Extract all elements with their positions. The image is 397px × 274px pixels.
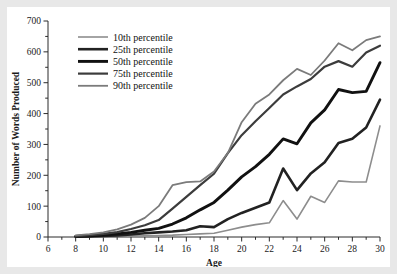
x-tick-label: 10: [99, 244, 109, 254]
y-tick-label: 400: [27, 109, 42, 119]
x-tick-label: 24: [292, 244, 302, 254]
x-tick-label: 14: [154, 244, 164, 254]
x-tick-label: 18: [209, 244, 219, 254]
y-axis-title: Number of Words Produced: [11, 71, 21, 186]
x-tick-label: 30: [375, 244, 385, 254]
x-tick-label: 22: [265, 244, 275, 254]
y-tick-label: 0: [36, 232, 41, 242]
x-tick-label: 6: [46, 244, 51, 254]
figure-container: 0100200300400500600700681012141618202224…: [0, 0, 397, 274]
x-tick-label: 8: [73, 244, 78, 254]
legend-label-4: 75th percentile: [113, 68, 173, 79]
x-tick-label: 16: [182, 244, 192, 254]
y-tick-label: 300: [27, 140, 42, 150]
legend-label-1: 10th percentile: [113, 32, 173, 43]
y-tick-label: 600: [27, 47, 42, 57]
y-tick-label: 700: [27, 16, 42, 26]
legend-label-5: 90th percentile: [113, 80, 173, 91]
y-tick-label: 200: [27, 171, 42, 181]
y-tick-label: 500: [27, 78, 42, 88]
y-tick-label: 100: [27, 202, 42, 212]
x-tick-label: 26: [320, 244, 330, 254]
line-chart: 0100200300400500600700681012141618202224…: [0, 0, 397, 274]
legend-label-2: 25th percentile: [113, 44, 173, 55]
x-tick-label: 20: [237, 244, 247, 254]
x-axis-title: Age: [206, 258, 222, 268]
x-tick-label: 12: [126, 244, 136, 254]
legend-label-3: 50th percentile: [113, 56, 173, 67]
x-tick-label: 28: [348, 244, 358, 254]
series-line-25th-percentile: [76, 100, 380, 237]
